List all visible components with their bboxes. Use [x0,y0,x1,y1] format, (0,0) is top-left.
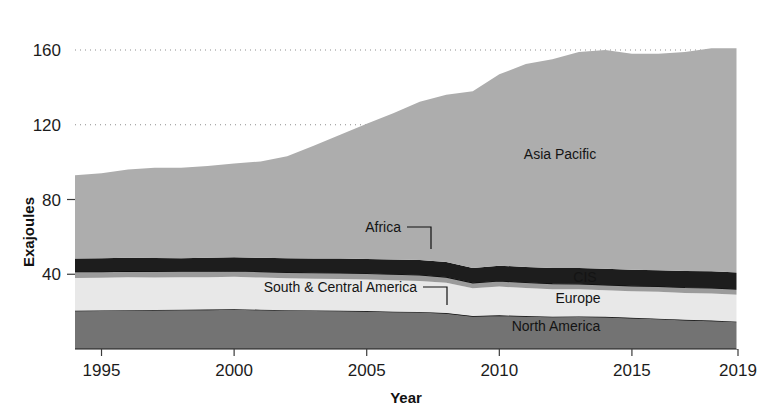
x-tick-label-2005: 2005 [348,361,386,380]
x-tick-label-2000: 2000 [215,361,253,380]
series-label-africa: Africa [365,219,401,235]
stacked-area-chart: 4080120160 199520002005201020152019 Asia… [0,0,774,419]
y-tick-label-160: 160 [33,41,61,60]
series-label-south-central-america: South & Central America [264,279,418,295]
series-label-north-america: North America [512,318,601,334]
y-tick-label-80: 80 [42,191,61,210]
x-axis-title: Year [390,389,422,406]
y-tick-label-120: 120 [33,116,61,135]
x-tick-label-1995: 1995 [83,361,121,380]
chart-figure: 4080120160 199520002005201020152019 Asia… [0,0,774,419]
x-tick-label-2015: 2015 [613,361,651,380]
x-tick-label-2019: 2019 [719,361,757,380]
y-axis-title: Exajoules [20,197,37,267]
series-label-europe: Europe [555,290,600,306]
y-tick-label-40: 40 [42,265,61,284]
series-label-cis: CIS [573,269,596,285]
x-tick-label-2010: 2010 [480,361,518,380]
series-label-asia-pacific: Asia Pacific [524,146,596,162]
